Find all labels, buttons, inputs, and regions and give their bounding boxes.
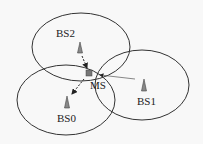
bs2-label: BS2: [56, 27, 75, 39]
bs1-antenna-icon: [142, 79, 147, 91]
bs1-label: BS1: [137, 95, 156, 107]
ms-label: MS: [90, 79, 106, 91]
link-bs2-ms: [82, 56, 87, 68]
bs0-label: BS0: [57, 112, 76, 124]
cellular-diagram: BS2 BS0 BS1 MS: [0, 0, 203, 144]
bs0-antenna-icon: [65, 96, 70, 108]
ms-terminal-icon: [86, 70, 92, 76]
bs2-antenna-icon: [78, 42, 83, 53]
cell-bs1-coverage: [95, 50, 189, 120]
diagram-svg: BS2 BS0 BS1 MS: [0, 0, 203, 144]
